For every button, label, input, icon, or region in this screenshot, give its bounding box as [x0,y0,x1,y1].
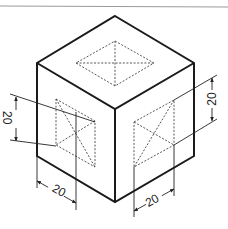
left-face-dashed-square [56,99,95,167]
dimension-right-bottom: 20 [134,189,174,211]
dimension-left-vertical: 20 [0,97,22,141]
cube-outline [37,16,194,202]
dimension-label-right-vertical: 20 [205,92,219,106]
dimension-right-vertical: 20 [205,78,219,121]
dimension-left-bottom: 20 [37,181,76,203]
top-face-dashed-square [76,41,154,86]
isometric-cube-drawing: 20 20 20 20 [0,0,228,229]
extension-lines [10,75,217,217]
dimension-label-left-vertical: 20 [0,111,14,125]
right-face-dashed-square [134,100,174,167]
top-rule-line [0,6,228,7]
